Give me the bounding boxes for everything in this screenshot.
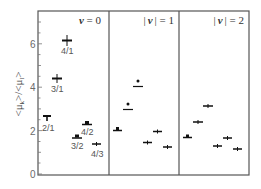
label-4-2: 4/2 xyxy=(81,127,94,137)
marker-3-1 xyxy=(193,120,203,124)
label-4-3: 4/3 xyxy=(91,149,104,159)
marker-4-2 xyxy=(223,136,232,140)
marker-3-1 xyxy=(52,74,62,83)
marker-3-2 xyxy=(143,141,152,145)
marker-2-1 xyxy=(183,135,192,138)
marker-4-2 xyxy=(153,130,162,134)
marker-4-1 xyxy=(203,104,213,108)
marker-4-2 xyxy=(82,121,92,125)
marker-4-1 xyxy=(133,80,143,87)
label-3-1: 3/1 xyxy=(51,84,64,94)
y-tick-4: 4 xyxy=(30,82,36,93)
marker-2-1 xyxy=(113,127,122,131)
plot-frame xyxy=(38,11,249,175)
y-tick-6: 6 xyxy=(30,39,36,50)
chart: 0 2 4 6 <μk>/<μl> ν = 0 |ν| = 1 |ν| = 2 xyxy=(0,0,261,189)
y-axis-label: <μk>/<μl> xyxy=(12,71,26,116)
panel-title-nu0: ν = 0 xyxy=(79,14,102,26)
panel-nu1-markers xyxy=(113,80,172,150)
marker-2-1 xyxy=(43,116,51,121)
marker-4-1 xyxy=(62,35,72,46)
panel-nu0-labels: 2/1 3/1 4/1 3/2 4/2 4/3 xyxy=(42,46,104,159)
label-4-1: 4/1 xyxy=(61,46,74,56)
panel-nu2-markers xyxy=(183,104,242,151)
label-3-2: 3/2 xyxy=(71,141,84,151)
label-2-1: 2/1 xyxy=(42,123,55,133)
marker-3-1 xyxy=(123,103,133,110)
panel-title-nu1: |ν| = 1 xyxy=(143,14,174,26)
panel-title-nu2: |ν| = 2 xyxy=(213,14,244,26)
marker-4-3 xyxy=(163,145,172,149)
marker-3-2 xyxy=(213,144,222,148)
y-tick-2: 2 xyxy=(30,126,36,137)
y-tick-labels: 0 2 4 6 xyxy=(30,39,36,181)
marker-4-3 xyxy=(233,147,242,151)
y-tick-0: 0 xyxy=(30,169,36,180)
marker-4-3 xyxy=(92,142,101,146)
